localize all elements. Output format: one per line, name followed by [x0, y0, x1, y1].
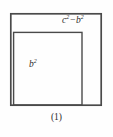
label-inner-square-area: b2 [29, 60, 37, 70]
figure-container: c2−b2 b2 (1) [0, 0, 113, 137]
inner-square [14, 32, 82, 105]
label-gnomon-exp2: 2 [81, 14, 84, 20]
label-gnomon-area: c2−b2 [62, 16, 84, 26]
outer-square [11, 14, 101, 105]
figure-caption: (1) [0, 113, 113, 123]
label-inner-exp: 2 [34, 58, 37, 64]
